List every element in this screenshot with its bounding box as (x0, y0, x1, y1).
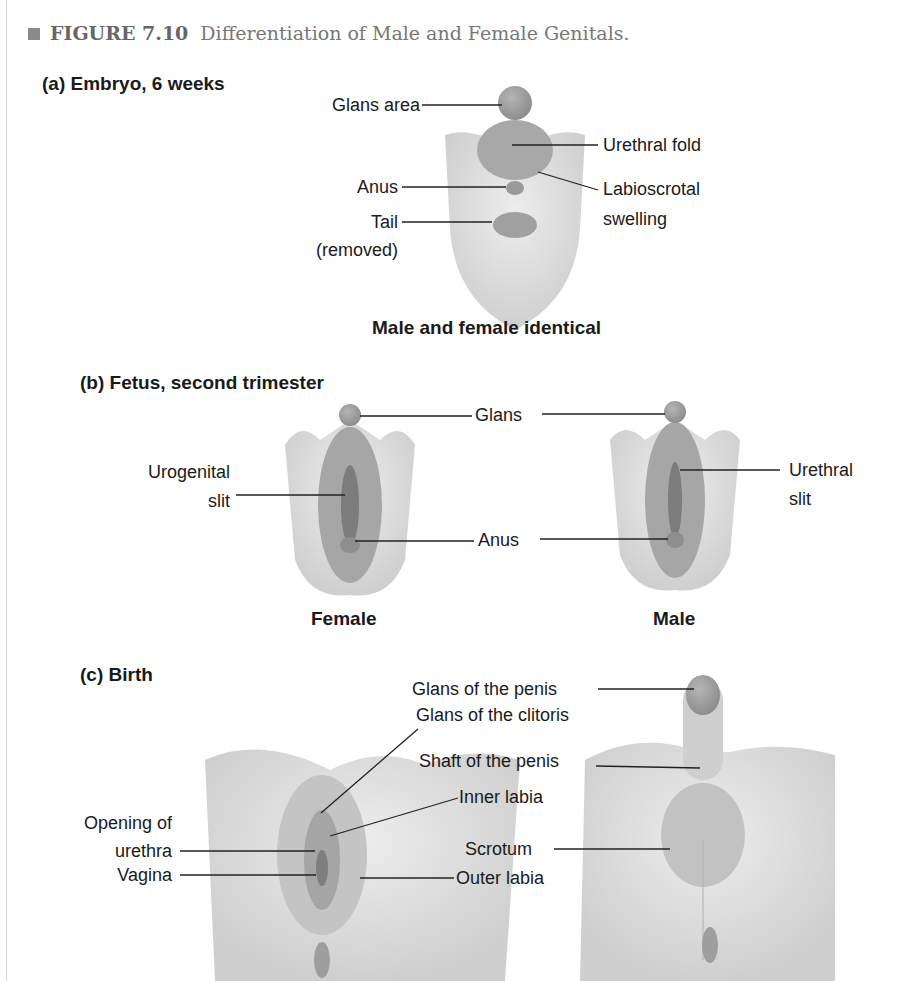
label-vagina: Vagina (40, 864, 172, 886)
label-opening-urethra-2: urethra (40, 840, 172, 862)
label-urogenital-2: slit (100, 490, 230, 512)
label-tail-2: (removed) (280, 239, 398, 261)
panel-b-female-subcaption: Female (311, 608, 376, 630)
label-urogenital-1: Urogenital (100, 461, 230, 483)
label-anus-a: Anus (320, 176, 398, 198)
panel-c-heading: (c) Birth (80, 664, 153, 686)
label-scrotum: Scrotum (465, 838, 532, 860)
label-anus-b: Anus (478, 529, 519, 551)
panel-a-subcaption: Male and female identical (372, 317, 601, 339)
label-urethral-slit-2: slit (789, 488, 811, 510)
label-tail-1: Tail (320, 211, 398, 233)
label-urethral-slit-1: Urethral (789, 459, 853, 481)
label-shaft-penis: Shaft of the penis (419, 750, 559, 772)
label-glans-b: Glans (475, 404, 522, 426)
panel-b-heading: (b) Fetus, second trimester (80, 372, 324, 394)
panel-b-female-artwork (285, 404, 415, 596)
label-urethral-fold: Urethral fold (603, 134, 701, 156)
panel-c-male-artwork (580, 675, 835, 981)
label-inner-labia: Inner labia (459, 786, 543, 808)
label-glans-area: Glans area (300, 94, 420, 116)
label-labioscrotal-2: swelling (603, 208, 667, 230)
panel-b-male-subcaption: Male (653, 608, 695, 630)
panel-a-artwork (445, 86, 585, 330)
label-outer-labia: Outer labia (456, 867, 544, 889)
label-opening-urethra-1: Opening of (40, 812, 172, 834)
label-glans-clitoris: Glans of the clitoris (416, 704, 569, 726)
label-glans-penis: Glans of the penis (412, 678, 557, 700)
panel-c-female-artwork (205, 750, 520, 981)
label-labioscrotal-1: Labioscrotal (603, 178, 700, 200)
panel-b-male-artwork (610, 401, 740, 591)
panel-a-heading: (a) Embryo, 6 weeks (42, 73, 225, 95)
